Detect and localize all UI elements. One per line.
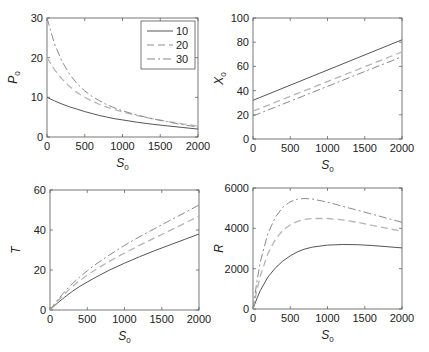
axes-box [50, 190, 199, 310]
subplot-p0: 05001000150020000102030S0P0102030 [6, 12, 210, 172]
x-tick-label: 1000 [315, 312, 339, 324]
x-tick-label: 0 [250, 142, 256, 154]
legend-label-20: 20 [176, 39, 188, 51]
x-tick-label: 2000 [187, 313, 211, 325]
x-tick-label: 1000 [112, 313, 136, 325]
y-tick-label: 0 [40, 304, 46, 316]
legend-label-30: 30 [176, 53, 188, 65]
x-tick-label: 0 [47, 313, 53, 325]
y-axis-label: T [9, 245, 23, 254]
y-tick-label: 40 [237, 85, 249, 97]
y-tick-label: 40 [34, 224, 46, 236]
legend: 102030 [141, 21, 195, 69]
x-axis-label: S0 [321, 158, 334, 174]
x-tick-label: 1500 [150, 313, 174, 325]
subplot-t: 05001000150020000204060S0T [9, 184, 211, 345]
y-tick-label: 80 [237, 36, 249, 48]
y-tick-label: 0 [37, 131, 43, 143]
y-axis-label: R [212, 244, 226, 253]
x-axis-label: S0 [118, 329, 131, 345]
subplot-x0: 0500100015002000020406080100S0X0 [212, 12, 414, 174]
x-tick-label: 2000 [186, 140, 210, 152]
x-tick-label: 2000 [390, 312, 414, 324]
y-tick-label: 100 [231, 12, 249, 24]
y-tick-label: 20 [34, 264, 46, 276]
y-tick-label: 20 [237, 109, 249, 121]
y-tick-label: 0 [243, 133, 249, 145]
y-tick-label: 4000 [225, 222, 249, 234]
y-tick-label: 30 [31, 12, 43, 24]
x-tick-label: 0 [250, 312, 256, 324]
x-tick-label: 1000 [110, 140, 134, 152]
y-axis-label: P0 [6, 71, 22, 84]
x-tick-label: 500 [281, 312, 299, 324]
y-tick-label: 2000 [225, 263, 249, 275]
x-tick-label: 1500 [148, 140, 172, 152]
y-tick-label: 0 [243, 303, 249, 315]
x-tick-label: 500 [78, 313, 96, 325]
y-axis-label: X0 [212, 72, 228, 86]
x-axis-label: S0 [321, 328, 334, 344]
y-tick-label: 10 [31, 91, 43, 103]
x-tick-label: 2000 [390, 142, 414, 154]
y-tick-label: 60 [237, 60, 249, 72]
subplot-r: 05001000150020000200040006000S0R [212, 182, 414, 344]
x-tick-label: 1000 [315, 142, 339, 154]
x-axis-label: S0 [116, 156, 129, 172]
y-tick-label: 60 [34, 184, 46, 196]
x-tick-label: 1500 [353, 312, 377, 324]
x-tick-label: 500 [281, 142, 299, 154]
legend-label-10: 10 [176, 25, 188, 37]
axes-box [253, 18, 402, 139]
figure: 05001000150020000102030S0P0102030 050010… [0, 0, 429, 352]
axes-box [253, 188, 402, 309]
x-tick-label: 0 [44, 140, 50, 152]
x-tick-label: 500 [76, 140, 94, 152]
y-tick-label: 20 [31, 52, 43, 64]
x-tick-label: 1500 [353, 142, 377, 154]
y-tick-label: 6000 [225, 182, 249, 194]
